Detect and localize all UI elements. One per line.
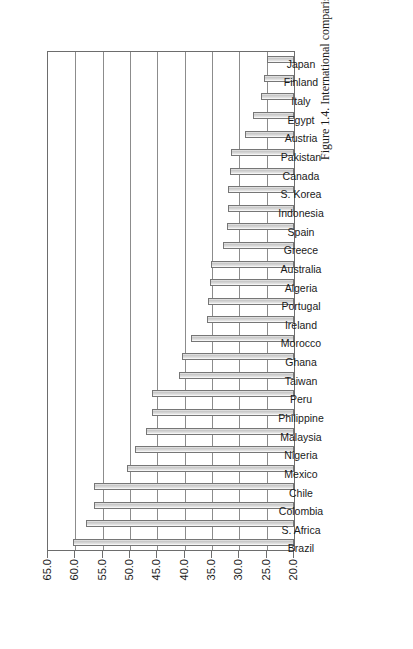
category-label: Ireland <box>299 316 369 323</box>
bar <box>73 539 294 546</box>
category-label: Australia <box>299 260 369 267</box>
category-label-text: Colombia <box>279 506 323 517</box>
bar <box>152 409 294 416</box>
category-label: Chile <box>299 484 369 491</box>
category-label-text: Pakistan <box>281 152 321 163</box>
category-label-text: S. Africa <box>281 525 320 536</box>
category-label: Mexico <box>299 465 369 472</box>
bar <box>86 520 294 527</box>
value-axis: 20.025.030.035.040.045.050.055.060.065.0 <box>47 551 295 625</box>
category-label: Austria <box>299 130 369 137</box>
category-label: Italy <box>299 93 369 100</box>
category-label-text: Algeria <box>285 283 318 294</box>
y-axis-tick-label: 25.0 <box>260 559 271 605</box>
y-axis-tick-label: 30.0 <box>233 559 244 605</box>
y-axis-tick-label: 20.0 <box>288 559 299 605</box>
category-label-text: Malaysia <box>280 432 321 443</box>
bar <box>94 483 294 490</box>
category-label: Brazil <box>299 540 369 547</box>
bar-series <box>48 52 294 550</box>
y-axis-tick-mark <box>102 551 103 558</box>
category-label-text: Egypt <box>288 115 315 126</box>
category-label-text: Spain <box>288 227 315 238</box>
category-label: Indonesia <box>299 204 369 211</box>
category-label-text: S. Korea <box>281 189 322 200</box>
category-label-text: Philippine <box>278 413 324 424</box>
category-label-text: Taiwan <box>285 376 318 387</box>
category-label: Canada <box>299 167 369 174</box>
y-axis-tick-label: 45.0 <box>151 559 162 605</box>
category-label-text: Ireland <box>285 320 317 331</box>
category-label-text: Canada <box>283 171 320 182</box>
category-label-text: Austria <box>285 133 318 144</box>
category-label-text: Portugal <box>281 301 320 312</box>
y-axis-tick-label: 60.0 <box>69 559 80 605</box>
bar <box>182 353 294 360</box>
category-label: S. Africa <box>299 521 369 528</box>
y-axis-tick-mark <box>74 551 75 558</box>
category-label-text: Greece <box>284 245 318 256</box>
category-label: Philippine <box>299 410 369 417</box>
bar <box>146 428 294 435</box>
y-axis-tick-label: 65.0 <box>42 559 53 605</box>
category-label: Portugal <box>299 298 369 305</box>
plot-area <box>47 51 295 551</box>
figure-page: 20.025.030.035.040.045.050.055.060.065.0… <box>0 0 413 649</box>
category-label-text: Chile <box>289 488 313 499</box>
y-axis-tick-mark <box>156 551 157 558</box>
y-axis-tick-mark <box>129 551 130 558</box>
bar <box>207 316 294 323</box>
bar <box>135 446 294 453</box>
bar <box>152 391 294 398</box>
category-label-text: Finland <box>284 77 318 88</box>
category-label-text: Morocco <box>281 338 321 349</box>
chart-container: 20.025.030.035.040.045.050.055.060.065.0… <box>0 0 413 649</box>
bar <box>261 94 294 101</box>
category-label-text: Indonesia <box>278 208 324 219</box>
bar <box>210 279 294 286</box>
bar <box>127 465 294 472</box>
y-axis-tick-mark <box>238 551 239 558</box>
category-label-text: Japan <box>287 59 316 70</box>
category-label: Pakistan <box>299 149 369 156</box>
y-axis-tick-label: 50.0 <box>124 559 135 605</box>
category-label: Finland <box>299 74 369 81</box>
category-label: Peru <box>299 391 369 398</box>
y-axis-tick-label: 35.0 <box>206 559 217 605</box>
category-label: Spain <box>299 223 369 230</box>
figure-caption: Figure 1.4. International comparison of … <box>318 0 332 160</box>
category-label-text: Italy <box>291 96 310 107</box>
category-label-text: Ghana <box>285 357 317 368</box>
category-label: Morocco <box>299 335 369 342</box>
category-label: Colombia <box>299 503 369 510</box>
category-label-text: Brazil <box>288 544 314 555</box>
y-axis-tick-mark <box>47 551 48 558</box>
category-label: Egypt <box>299 111 369 118</box>
bar <box>191 335 294 342</box>
category-label: Nigeria <box>299 447 369 454</box>
category-label-text: Nigeria <box>284 450 317 461</box>
bar <box>227 223 294 230</box>
category-label: Japan <box>299 55 369 62</box>
category-label: S. Korea <box>299 186 369 193</box>
y-axis-tick-mark <box>184 551 185 558</box>
category-axis: BrazilS. AfricaColombiaChileMexicoNigeri… <box>299 51 369 551</box>
category-label: Algeria <box>299 279 369 286</box>
category-label: Taiwan <box>299 372 369 379</box>
category-label-text: Mexico <box>284 469 317 480</box>
category-label-text: Peru <box>290 394 312 405</box>
bar <box>179 372 294 379</box>
y-axis-tick-mark <box>266 551 267 558</box>
y-axis-tick-label: 40.0 <box>178 559 189 605</box>
category-label-text: Australia <box>281 264 322 275</box>
category-label: Malaysia <box>299 428 369 435</box>
y-axis-tick-label: 55.0 <box>96 559 107 605</box>
category-label: Greece <box>299 242 369 249</box>
bar <box>94 502 294 509</box>
category-label: Ghana <box>299 354 369 361</box>
y-axis-tick-mark <box>211 551 212 558</box>
